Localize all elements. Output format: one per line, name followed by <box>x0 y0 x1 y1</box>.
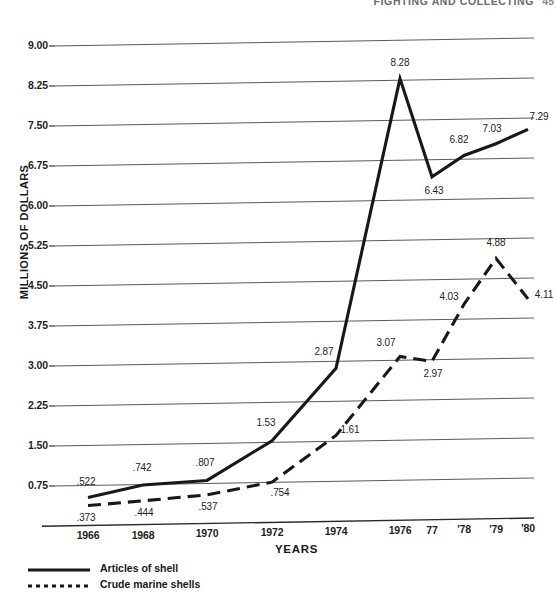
data-point-label: 1.53 <box>256 417 275 428</box>
data-point-label: .807 <box>195 457 214 468</box>
legend-item-articles-of-shell: Articles of shell <box>28 562 328 578</box>
gridline <box>55 118 534 126</box>
legend-item-crude-marine-shells: Crude marine shells <box>28 578 328 594</box>
series-line-crude-marine-shells <box>88 258 528 505</box>
y-axis-tick-label: 1.50 <box>4 439 48 451</box>
legend-label-crude-marine-shells: Crude marine shells <box>100 578 200 590</box>
legend-label-articles-of-shell: Articles of shell <box>100 562 178 574</box>
data-point-label: .444 <box>134 507 153 518</box>
data-point-label: .742 <box>132 462 151 473</box>
data-point-label: 2.97 <box>423 368 442 379</box>
data-point-label: 6.82 <box>449 134 468 145</box>
gridline <box>55 278 534 286</box>
data-point-label: .522 <box>76 476 95 487</box>
gridline <box>55 478 534 486</box>
legend-swatch-dashed-line <box>28 584 90 588</box>
data-point-label: 4.88 <box>486 237 505 248</box>
y-axis-tick-label: 7.50 <box>4 119 48 131</box>
y-axis-tick-label: 8.25 <box>4 79 48 91</box>
gridline <box>55 358 534 366</box>
x-axis-tick-label: 1974 <box>325 525 348 537</box>
data-point-label: 7.29 <box>529 111 548 122</box>
y-axis-tick-label: 3.00 <box>4 359 48 371</box>
data-point-label: 3.07 <box>376 337 395 348</box>
line-chart-figure: 9.008.257.506.756.005.254.503.753.002.25… <box>0 0 556 602</box>
data-point-label: .754 <box>270 487 289 498</box>
data-point-label: .537 <box>198 501 217 512</box>
x-axis-tick-label: '78 <box>457 523 471 535</box>
data-point-label: 8.28 <box>390 57 409 68</box>
y-axis-tick-label: 3.75 <box>4 319 48 331</box>
gridline <box>55 238 534 246</box>
data-point-label: 1.61 <box>340 424 359 435</box>
data-point-label: 4.11 <box>535 289 553 300</box>
chart-legend: Articles of shell Crude marine shells <box>28 562 328 594</box>
data-point-label: 2.87 <box>314 346 333 357</box>
y-axis-tick-label: 2.25 <box>4 399 48 411</box>
data-point-label: .373 <box>76 512 95 523</box>
gridline <box>55 198 534 206</box>
y-axis-tick-label: 0.75 <box>4 479 48 491</box>
x-axis-tick-label: 1970 <box>196 527 219 539</box>
x-axis-tick-label: 1976 <box>389 524 412 536</box>
x-axis-tick-label: 77 <box>426 524 437 536</box>
x-axis-tick-label: '80 <box>521 522 535 534</box>
x-axis-tick-label: 1966 <box>77 529 100 541</box>
y-axis-title: MILLIONS OF DOLLARS <box>18 162 30 302</box>
gridline <box>55 438 534 446</box>
gridline <box>55 38 534 46</box>
legend-swatch-solid-line <box>28 568 90 572</box>
y-axis-tick-label: 9.00 <box>4 39 48 51</box>
data-point-label: 4.03 <box>439 291 458 302</box>
x-axis-tick-label: 1972 <box>261 526 284 538</box>
data-point-label: 7.03 <box>482 123 501 134</box>
gridline <box>55 318 534 326</box>
gridline <box>55 158 534 166</box>
gridline <box>55 78 534 86</box>
x-axis-tick-label: '79 <box>489 523 503 535</box>
x-axis-tick-label: 1968 <box>132 529 155 541</box>
x-axis-title: YEARS <box>0 543 556 555</box>
data-point-label: 6.43 <box>424 185 443 196</box>
gridline <box>55 398 534 406</box>
